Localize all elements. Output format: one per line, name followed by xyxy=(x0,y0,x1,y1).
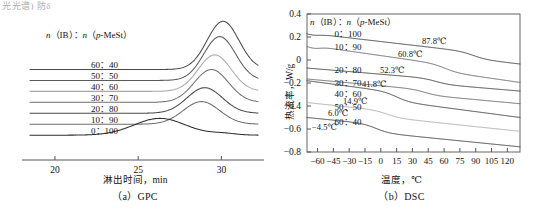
dsc-y-tick: 0.4 xyxy=(289,9,301,19)
dsc-ratio-label-1: 10：90 xyxy=(312,40,384,53)
dsc-x-tick: −60 xyxy=(311,156,326,166)
dsc-tg-annotation-6: −4.5℃ xyxy=(312,122,337,132)
dsc-y-axis-label: 热流率，W/g xyxy=(282,64,296,120)
dsc-caption: （b）DSC xyxy=(270,188,533,203)
gpc-ratio-label-6: 0：100 xyxy=(40,124,118,137)
dsc-ratio-label-2: 20：80 xyxy=(312,63,384,76)
dsc-y-tick: −0.6 xyxy=(284,124,301,134)
dsc-y-tick: 0 xyxy=(296,55,301,65)
dsc-tg-annotation-3: 41.8℃ xyxy=(362,79,386,89)
panel-gpc: 202530 n（IB）：n（p-MeSt） 60：4050：5040：6030… xyxy=(0,0,270,212)
dsc-x-tick: 120 xyxy=(501,156,515,166)
figure-root: 光光谱) 防δ 202530 n（IB）：n（p-MeSt） 60：4050：5… xyxy=(0,0,533,212)
dsc-x-tick: −45 xyxy=(326,156,341,166)
dsc-x-tick: 0 xyxy=(379,156,384,166)
dsc-x-tick: 105 xyxy=(485,156,499,166)
dsc-x-axis-label: 温度，℃ xyxy=(270,172,533,186)
gpc-x-axis-label: 淋出时间，min xyxy=(0,172,270,186)
gpc-caption: （a）GPC xyxy=(0,188,270,203)
dsc-y-tick: 0.2 xyxy=(289,32,301,42)
dsc-tg-annotation-4: 14.9℃ xyxy=(343,96,367,106)
dsc-x-tick: 30 xyxy=(408,156,418,166)
dsc-x-tick: 60 xyxy=(440,156,450,166)
dsc-x-tick: 90 xyxy=(471,156,481,166)
dsc-x-tick: −15 xyxy=(358,156,373,166)
dsc-y-tick: −0.8 xyxy=(284,147,301,157)
dsc-x-tick: −30 xyxy=(342,156,357,166)
dsc-x-tick: 15 xyxy=(392,156,402,166)
gpc-legend-header: n（IB）：n（p-MeSt） xyxy=(46,28,132,41)
panel-dsc: 0.40.20−0.2−0.4−0.6−0.8−60−45−30−1501530… xyxy=(270,0,533,212)
dsc-tg-annotation-1: 60.8℃ xyxy=(398,49,422,59)
dsc-tg-annotation-0: 87.8℃ xyxy=(422,36,446,46)
dsc-ratio-label-0: 0：100 xyxy=(312,27,384,40)
dsc-tg-annotation-2: 52.3℃ xyxy=(380,65,404,75)
dsc-tg-annotation-5: 6.0℃ xyxy=(328,108,348,118)
dsc-x-tick: 75 xyxy=(455,156,465,166)
dsc-x-tick: 45 xyxy=(424,156,434,166)
